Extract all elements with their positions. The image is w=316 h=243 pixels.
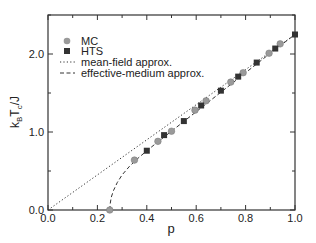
legend-label: effective-medium approx. (81, 67, 204, 79)
tc-vs-p-plot: 0.00.20.40.60.81.00.01.02.0 MCHTSmean-fi… (0, 0, 316, 243)
y-tick-label: 0.0 (29, 204, 44, 216)
mc-point (168, 128, 175, 135)
x-tick-label: 0.6 (189, 212, 204, 224)
mc-point (155, 138, 162, 145)
hts-point (292, 32, 298, 38)
x-axis-label: p (167, 221, 174, 236)
mc-point (266, 50, 273, 57)
hts-point (144, 148, 150, 154)
y-axis-label: kBTc/J (8, 96, 24, 128)
hts-point (254, 60, 260, 66)
hts-point (181, 118, 187, 124)
legend-circle-icon (64, 38, 71, 45)
x-tick-label: 0.2 (90, 212, 105, 224)
hts-point (161, 132, 167, 138)
x-tick-label: 0.4 (139, 212, 154, 224)
hts-point (198, 102, 204, 108)
hts-point (235, 74, 241, 80)
hts-point (272, 46, 278, 52)
mc-point (131, 157, 138, 164)
svg-text:kBTc/J: kBTc/J (8, 96, 24, 128)
hts-point (218, 88, 224, 94)
y-tick-label: 1.0 (29, 126, 44, 138)
mc-point (106, 207, 113, 214)
x-tick-label: 1.0 (287, 212, 302, 224)
y-tick-label: 2.0 (29, 48, 44, 60)
chart-container: 0.00.20.40.60.81.00.01.02.0 MCHTSmean-fi… (0, 0, 316, 243)
legend-square-icon (64, 48, 70, 54)
x-tick-label: 0.8 (238, 212, 253, 224)
mc-point (227, 79, 234, 86)
mc-point (192, 107, 199, 114)
axis-ticks: 0.00.20.40.60.81.00.01.02.0 (29, 15, 303, 224)
legend: MCHTSmean-field approx.effective-medium … (60, 35, 204, 79)
